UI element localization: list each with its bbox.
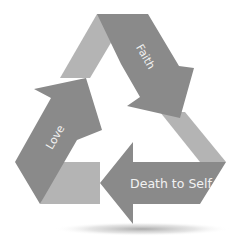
death-to-self-label: Death to Self <box>130 176 212 191</box>
band-right-lower <box>160 112 226 162</box>
cycle-diagram: Faith Death to Self Love <box>0 0 240 244</box>
drop-shadow <box>54 222 230 236</box>
cycle-diagram-svg: Faith Death to Self Love <box>0 0 240 244</box>
